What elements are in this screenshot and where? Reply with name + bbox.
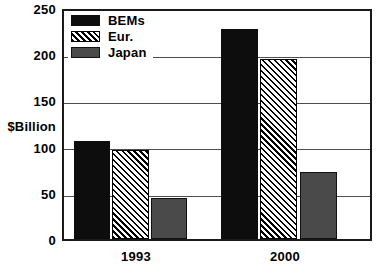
y-axis-title: $Billion <box>0 120 56 133</box>
bar-2000-japan <box>300 172 337 239</box>
y-tick-label: 0 <box>0 234 56 247</box>
y-tick-label: 250 <box>0 3 56 16</box>
bar-1993-japan <box>151 198 187 239</box>
legend: BEMs Eur. Japan <box>68 12 153 63</box>
gridline-150 <box>64 103 370 104</box>
x-tick-label-2000: 2000 <box>255 250 315 264</box>
y-tick-label: 50 <box>0 188 56 201</box>
legend-swatch-icon-bems <box>71 15 100 26</box>
legend-item-eur: Eur. <box>71 29 147 44</box>
bar-2000-eur <box>260 59 297 239</box>
bar-2000-bems <box>221 29 258 239</box>
legend-label-japan: Japan <box>108 46 147 59</box>
legend-label-eur: Eur. <box>108 30 133 43</box>
legend-item-japan: Japan <box>71 45 147 60</box>
legend-item-bems: BEMs <box>71 13 147 28</box>
y-axis: 250 200 150 $Billion 100 50 0 <box>0 0 56 277</box>
legend-swatch-icon-japan <box>71 47 100 58</box>
legend-swatch-icon-eur <box>71 31 100 42</box>
legend-label-bems: BEMs <box>108 14 145 27</box>
bar-1993-eur <box>112 150 149 239</box>
y-tick-label: 200 <box>0 49 56 62</box>
y-tick-label: 100 <box>0 142 56 155</box>
x-tick-label-1993: 1993 <box>106 250 166 264</box>
bar-chart: 250 200 150 $Billion 100 50 0 1993 2000 <box>0 0 383 277</box>
y-tick-label: 150 <box>0 95 56 108</box>
bar-1993-bems <box>74 141 110 239</box>
